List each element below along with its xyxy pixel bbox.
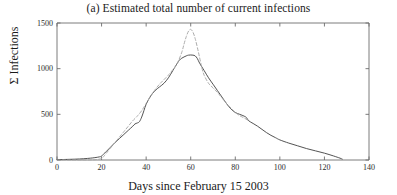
plot-area: 020406080100120140 050010001500 [0,0,397,195]
x-tick-label: 20 [98,163,106,172]
x-tick-label: 40 [142,163,150,172]
y-tick-label: 1000 [37,64,53,73]
x-tick-label: 120 [318,163,330,172]
axes [57,23,369,160]
data-series-dashed [57,29,249,160]
axis-frame [57,23,369,160]
x-tick-label: 100 [274,163,286,172]
y-tick-label: 0 [49,156,53,165]
data-series-group [57,29,342,160]
x-tick-label: 140 [363,163,375,172]
y-tick-label: 1500 [37,19,53,28]
x-tick-label: 0 [55,163,59,172]
y-axis-label: Σ Infections [7,0,22,116]
x-tick-label: 80 [231,163,239,172]
chart-figure: (a) Estimated total number of current in… [0,0,397,195]
y-axis-ticks: 050010001500 [37,19,369,165]
data-series-solid [57,55,342,160]
x-axis-ticks: 020406080100120140 [55,23,375,172]
x-tick-label: 60 [187,163,195,172]
x-axis-label: Days since February 15 2003 [0,179,397,194]
y-tick-label: 500 [41,110,53,119]
